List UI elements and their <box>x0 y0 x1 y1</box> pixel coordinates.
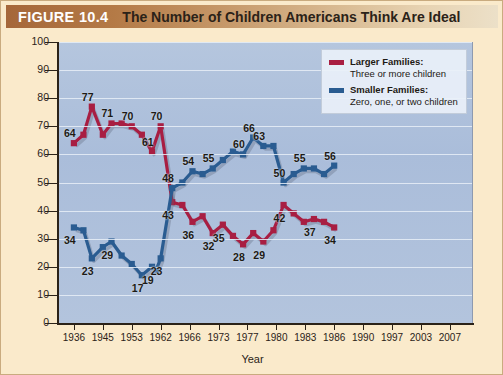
y-axis-label: 0 <box>1 316 49 328</box>
data-point-marker <box>301 219 307 225</box>
line-shadow <box>76 110 336 248</box>
data-point-marker <box>158 255 164 261</box>
legend-name-larger: Larger Families: <box>350 56 446 68</box>
data-point-marker <box>169 185 175 191</box>
data-point-marker <box>301 165 307 171</box>
data-point-marker <box>321 219 327 225</box>
x-axis-tick <box>74 324 75 330</box>
y-axis-label: 20 <box>1 260 49 272</box>
data-point-label: 60 <box>233 138 245 150</box>
data-point-marker <box>199 213 205 219</box>
data-point-marker <box>270 143 276 149</box>
gridline <box>58 295 472 296</box>
x-axis-line <box>57 323 474 325</box>
y-axis-label: 30 <box>1 232 49 244</box>
data-point-marker <box>311 165 317 171</box>
x-axis-tick <box>334 324 335 330</box>
gridline <box>58 211 472 212</box>
data-point-marker <box>80 132 86 138</box>
data-point-marker <box>199 171 205 177</box>
gridline <box>58 154 472 155</box>
x-axis-tick <box>247 324 248 330</box>
y-axis-line <box>57 42 59 324</box>
gridline <box>58 239 472 240</box>
data-point-label: 61 <box>142 136 154 148</box>
x-axis-tick <box>219 324 220 330</box>
y-axis-label: 40 <box>1 204 49 216</box>
figure-container: FIGURE 10.4 The Number of Children Ameri… <box>0 0 503 375</box>
data-point-label: 77 <box>82 91 94 103</box>
data-point-label: 29 <box>102 249 114 261</box>
y-axis-label: 50 <box>1 176 49 188</box>
data-point-label: 54 <box>182 155 194 167</box>
data-point-label: 55 <box>294 152 306 164</box>
x-axis-label: 2007 <box>430 332 470 343</box>
x-axis-tick <box>421 324 422 330</box>
x-axis-tick <box>363 324 364 330</box>
y-axis-label: 70 <box>1 119 49 131</box>
data-point-marker <box>71 224 77 230</box>
x-axis-title: Year <box>1 353 503 365</box>
data-point-label: 36 <box>182 229 194 241</box>
data-point-marker <box>250 230 256 236</box>
data-point-label: 70 <box>151 110 163 122</box>
data-point-label: 43 <box>162 209 174 221</box>
legend-item-larger-families: Larger Families: Three or more children <box>329 56 458 79</box>
legend-detail-larger: Three or more children <box>350 68 446 79</box>
x-axis-tick <box>132 324 133 330</box>
gridline <box>58 267 472 268</box>
data-point-label: 37 <box>304 226 316 238</box>
legend-name-smaller: Smaller Families: <box>350 84 458 96</box>
y-axis-label: 10 <box>1 288 49 300</box>
data-point-marker <box>71 140 77 146</box>
x-axis-tick <box>450 324 451 330</box>
data-point-marker <box>210 165 216 171</box>
figure-title: The Number of Children Americans Think A… <box>122 9 460 25</box>
data-point-marker <box>280 202 286 208</box>
data-point-marker <box>291 171 297 177</box>
x-axis-tick <box>103 324 104 330</box>
data-point-label: 71 <box>102 107 114 119</box>
y-axis-label: 80 <box>1 91 49 103</box>
data-point-label: 56 <box>324 150 336 162</box>
x-axis-tick <box>276 324 277 330</box>
gridline <box>58 126 472 127</box>
data-point-label: 70 <box>122 110 134 122</box>
y-axis-label: 60 <box>1 147 49 159</box>
data-point-label: 34 <box>324 234 336 246</box>
data-point-marker <box>220 157 226 163</box>
legend-swatch-blue <box>329 88 344 93</box>
data-point-marker <box>189 168 195 174</box>
data-point-marker <box>80 227 86 233</box>
data-point-marker <box>311 216 317 222</box>
data-point-label: 28 <box>233 251 245 263</box>
data-point-marker <box>189 219 195 225</box>
data-point-marker <box>331 224 337 230</box>
gridline <box>58 183 472 184</box>
data-point-marker <box>89 255 95 261</box>
chart-legend: Larger Families: Three or more children … <box>321 49 467 114</box>
data-point-marker <box>331 163 337 169</box>
data-point-label: 23 <box>151 265 163 277</box>
legend-swatch-red <box>329 60 344 65</box>
legend-label-smaller-families: Smaller Families: Zero, one, or two chil… <box>350 84 458 107</box>
x-axis-tick <box>392 324 393 330</box>
data-point-label: 42 <box>274 212 286 224</box>
data-point-label: 34 <box>64 234 76 246</box>
data-point-label: 23 <box>82 265 94 277</box>
data-point-marker <box>321 171 327 177</box>
figure-number: FIGURE 10.4 <box>18 9 108 25</box>
data-point-label: 55 <box>203 152 215 164</box>
data-point-marker <box>220 222 226 228</box>
figure-banner: FIGURE 10.4 The Number of Children Ameri… <box>6 5 498 28</box>
data-point-label: 48 <box>162 172 174 184</box>
data-point-marker <box>179 202 185 208</box>
legend-label-larger-families: Larger Families: Three or more children <box>350 56 446 79</box>
y-axis-label: 100 <box>1 35 49 47</box>
x-axis-tick <box>190 324 191 330</box>
data-point-marker <box>119 252 125 258</box>
data-point-marker <box>89 104 95 110</box>
x-axis-tick <box>305 324 306 330</box>
data-point-marker <box>100 132 106 138</box>
data-point-marker <box>260 143 266 149</box>
